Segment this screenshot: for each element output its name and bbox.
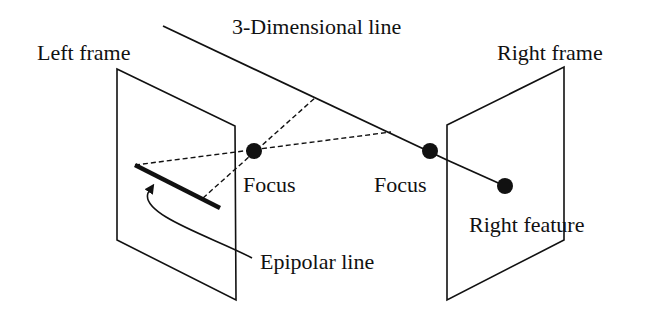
left-focus-label: Focus	[243, 174, 296, 196]
left-frame-label: Left frame	[37, 42, 130, 64]
right-ray	[447, 160, 505, 186]
epipolar-line-label: Epipolar line	[260, 251, 374, 273]
right-feature-label: Right feature	[469, 214, 584, 236]
right-focus-point	[422, 143, 438, 159]
right-feature-point	[497, 178, 513, 194]
three-dimensional-line	[163, 26, 447, 160]
dashed-projection-1	[135, 132, 391, 165]
right-frame-label: Right frame	[497, 42, 603, 64]
right-focus-label: Focus	[374, 174, 427, 196]
three-dimensional-line-label: 3-Dimensional line	[232, 16, 401, 38]
left-focus-point	[246, 143, 262, 159]
epipolar-line	[135, 165, 220, 208]
